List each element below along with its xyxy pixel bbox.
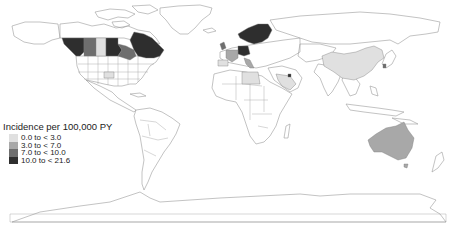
region-libya — [242, 72, 260, 84]
alaska — [12, 22, 60, 44]
legend-swatch — [9, 149, 18, 157]
region-alberta — [84, 38, 96, 56]
region-scandinavia — [238, 24, 272, 44]
region-china — [322, 46, 384, 80]
antarctica — [12, 192, 446, 222]
region-south-korea — [383, 64, 386, 68]
legend-swatch — [9, 157, 18, 165]
region-us-state — [104, 72, 114, 78]
legend-title: Incidence per 100,000 PY — [3, 121, 112, 132]
south-america-borders — [140, 120, 168, 156]
region-saudi-arabia — [276, 74, 296, 90]
madagascar — [284, 124, 290, 138]
caribbean — [130, 93, 146, 97]
country-outlines — [10, 5, 446, 222]
map-frame-bottom — [10, 214, 446, 222]
legend-item: 10.0 to < 21.6 — [3, 157, 112, 165]
map-legend: Incidence per 100,000 PY 0.0 to < 3.0 3.… — [3, 121, 112, 164]
data-regions — [62, 24, 414, 168]
legend-swatch — [9, 134, 18, 142]
region-bc-yukon — [62, 38, 84, 56]
region-tasmania — [404, 164, 408, 168]
region-germany — [238, 46, 250, 56]
mexico-central-america — [86, 80, 136, 112]
new-guinea — [392, 118, 418, 124]
legend-label: 10.0 to < 21.6 — [21, 157, 70, 165]
new-zealand — [432, 152, 444, 172]
russia — [270, 12, 440, 44]
region-australia — [368, 122, 414, 160]
region-saskatchewan — [96, 38, 106, 56]
legend-swatch — [9, 142, 18, 150]
iceland — [203, 28, 216, 33]
world-choropleth-map — [0, 0, 450, 228]
canada-arctic-islands — [95, 5, 158, 28]
indonesia — [346, 86, 404, 116]
region-kuwait — [288, 74, 291, 77]
region-italy — [244, 58, 254, 68]
region-uk — [220, 42, 226, 50]
region-spain — [218, 60, 228, 66]
